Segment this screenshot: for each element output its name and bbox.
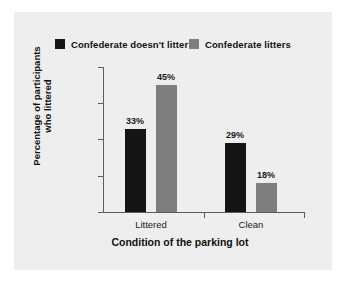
bar-value-label-clean-black: 29% (212, 131, 258, 140)
gray-swatch-icon (189, 39, 199, 49)
y-axis-title-line-2: who littered (42, 26, 53, 186)
x-tick-right-end (304, 213, 305, 218)
legend-entry-confederate-doesnt-litter: Confederate doesn't litter (55, 36, 188, 52)
y-tick-30 (98, 139, 103, 140)
x-axis-title: Condition of the parking lot (55, 236, 305, 248)
y-tick-20 (98, 176, 103, 177)
y-axis-title: Percentage of participants who littered (31, 26, 53, 186)
x-tick-label-littered: Littered (106, 219, 196, 230)
bar-littered-confederate-doesnt-litter (125, 129, 146, 212)
black-swatch-icon (55, 39, 65, 49)
legend-entry-confederate-litters: Confederate litters (189, 36, 291, 52)
legend-label: Confederate doesn't litter (71, 39, 188, 50)
y-tick-40 (98, 103, 103, 104)
legend-label: Confederate litters (205, 39, 291, 50)
bar-value-label-clean-gray: 18% (243, 171, 289, 180)
y-axis-title-line-1: Percentage of participants (31, 26, 42, 186)
y-axis-line (103, 67, 104, 213)
x-tick-label-clean: Clean (206, 219, 296, 230)
bar-littered-confederate-litters (156, 85, 177, 212)
bar-clean-confederate-litters (256, 183, 277, 212)
bar-value-label-littered-black: 33% (112, 117, 158, 126)
plot-area: 50% 40 30 20 10 33% 45% 29% 18% Littered… (103, 67, 305, 213)
chart-legend: Confederate doesn't litter Confederate l… (55, 36, 305, 52)
x-tick-group-separator (204, 213, 205, 218)
y-tick-10 (98, 212, 103, 213)
bar-chart-figure: Confederate doesn't litter Confederate l… (0, 0, 346, 284)
bar-value-label-littered-gray: 45% (143, 73, 189, 82)
y-tick-50 (98, 67, 103, 68)
